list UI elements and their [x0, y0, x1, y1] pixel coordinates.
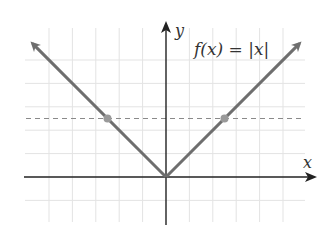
function-label: f(x) = |x| [192, 39, 269, 59]
intersection-point [221, 115, 229, 123]
absolute-value-graph: y x f(x) = |x| [0, 0, 334, 229]
curve-left-branch [33, 44, 166, 177]
intersection-point [104, 115, 112, 123]
y-axis-label: y [174, 21, 185, 40]
x-axis-label: x [303, 153, 312, 172]
curve-right-branch [166, 44, 299, 177]
